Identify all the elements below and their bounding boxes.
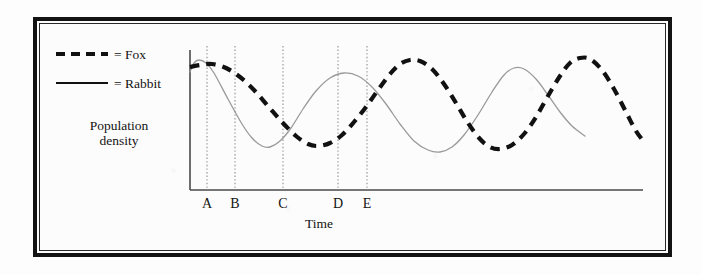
legend-label-fox: = Fox	[114, 47, 146, 63]
x-tick-label-c: C	[273, 196, 293, 212]
x-axis-title: Time	[305, 216, 333, 232]
legend-label-rabbit: = Rabbit	[114, 76, 161, 92]
series-group	[190, 57, 645, 152]
y-axis-title: Population density	[60, 118, 178, 148]
series-line-rabbit	[190, 60, 585, 152]
y-axis-title-line1: Population	[60, 118, 178, 133]
x-tick-label-a: A	[197, 196, 217, 212]
series-line-fox	[190, 57, 645, 149]
x-tick-label-b: B	[225, 196, 245, 212]
x-tick-label-d: D	[328, 196, 348, 212]
figure-container: = Fox = Rabbit Population density Time A…	[0, 0, 702, 275]
x-tick-label-e: E	[357, 196, 377, 212]
marker-line-group	[207, 46, 367, 190]
y-axis-title-line2: density	[60, 133, 178, 148]
